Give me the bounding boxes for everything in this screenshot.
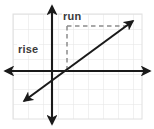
run-label: run [62, 11, 82, 22]
rise-label: rise [17, 44, 39, 55]
slope-diagram: rise run [0, 0, 154, 129]
